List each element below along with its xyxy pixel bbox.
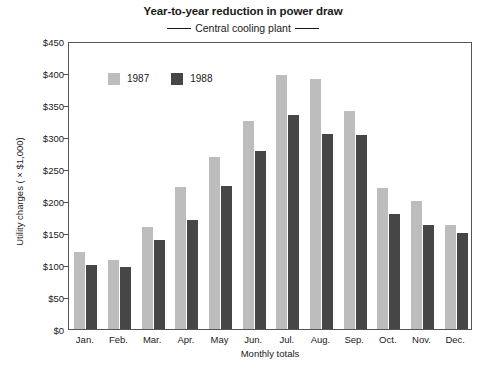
bar-1988-oct [389,214,400,329]
bar-1988-feb [120,267,131,329]
bar-group [108,43,131,329]
bar-1988-jan [86,265,97,329]
y-tick-label: $250 [0,165,64,176]
y-tick-label: $450 [0,37,64,48]
y-tick-label: $200 [0,197,64,208]
x-axis-title: Monthly totals [68,348,472,359]
subtitle-rule-right [295,28,319,29]
bar-group [411,43,434,329]
bar-1988-may [221,186,232,329]
bar-group [344,43,367,329]
bar-group [445,43,468,329]
bar-group [377,43,400,329]
bar-1988-sep [356,135,367,329]
bar-1988-dec [457,233,468,329]
y-tick-label: $150 [0,229,64,240]
bar-group [276,43,299,329]
bar-group [243,43,266,329]
y-tick-label: $50 [0,293,64,304]
bar-1987-feb [108,260,119,329]
bar-group [74,43,97,329]
chart-subtitle-text: Central cooling plant [195,22,291,34]
bar-1988-nov [423,225,434,329]
bar-1987-jun [243,121,254,329]
y-tick-label: $400 [0,69,64,80]
chart-subtitle: Central cooling plant [0,22,486,34]
bar-group [142,43,165,329]
bar-1987-mar [142,227,153,329]
bar-1987-jul [276,75,287,329]
bar-1987-sep [344,111,355,329]
bar-1987-nov [411,201,422,329]
legend-label-1988: 1988 [190,73,212,84]
y-tick-label: $350 [0,101,64,112]
bar-1988-mar [154,240,165,329]
bar-1988-apr [187,220,198,329]
subtitle-rule-left [167,28,191,29]
bar-1987-apr [175,187,186,329]
bar-group [209,43,232,329]
chart-legend: 19871988 [108,72,235,85]
bar-1987-may [209,157,220,329]
x-tick-label: Dec. [435,334,475,345]
bar-group [310,43,333,329]
bar-1988-aug [322,134,333,329]
legend-swatch-1988 [171,73,183,85]
y-tick-label: $100 [0,261,64,272]
plot-area [68,42,472,330]
bar-group [175,43,198,329]
y-tick-label: $0 [0,325,64,336]
chart-figure: Year-to-year reduction in power draw Cen… [0,0,486,378]
legend-label-1987: 1987 [127,73,149,84]
bar-1987-dec [445,225,456,329]
legend-item-1988: 1988 [171,73,212,85]
bar-1988-jun [255,151,266,329]
bar-1987-jan [74,252,85,329]
bar-1987-oct [377,188,388,329]
y-tick-label: $300 [0,133,64,144]
chart-title: Year-to-year reduction in power draw [0,5,486,17]
bar-1987-aug [310,79,321,329]
bar-1988-jul [288,115,299,329]
legend-item-1987: 1987 [108,73,149,85]
legend-swatch-1987 [108,73,120,85]
